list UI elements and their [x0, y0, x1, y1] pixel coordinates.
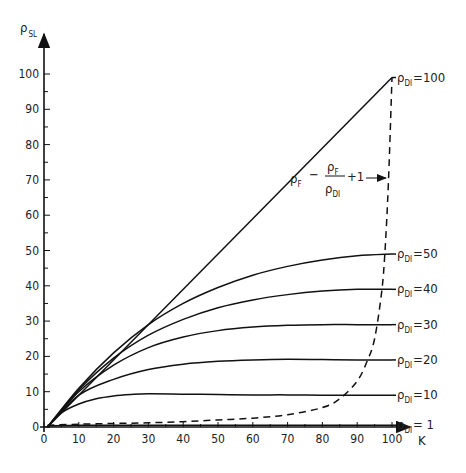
- svg-text:+1: +1: [347, 169, 364, 184]
- annotation-formula: ρF − ρF ρDI +1: [290, 159, 386, 199]
- y-tick-label: 70: [25, 173, 39, 187]
- x-tick-label: 10: [72, 432, 86, 446]
- svg-text:ρDI: ρDI: [325, 181, 340, 199]
- curve-rho-di-30: [47, 325, 392, 427]
- y-tick-label: 60: [25, 208, 39, 222]
- svg-text:ρF: ρF: [327, 159, 339, 177]
- x-tick-label: 80: [316, 432, 330, 446]
- y-tick-label: 80: [25, 138, 39, 152]
- curve-label: ρDI=40: [397, 281, 438, 299]
- y-tick-label: 30: [25, 314, 39, 328]
- curve-rho-di-40: [47, 289, 392, 427]
- curve-rho-di-50: [47, 254, 392, 427]
- curve-rho-di-100: [47, 78, 392, 427]
- x-tick-label: 100: [382, 432, 403, 446]
- y-tick-label: 20: [25, 349, 39, 363]
- curve-rho-di-10: [47, 394, 392, 427]
- curves: [47, 78, 392, 427]
- x-tick-label: 30: [142, 432, 156, 446]
- x-tick-label: 40: [176, 432, 190, 446]
- curve-rho-di-1: [47, 425, 392, 426]
- svg-text:ρF: ρF: [290, 171, 302, 189]
- y-tick-label: 100: [18, 67, 39, 81]
- curve-label: ρDI=100: [397, 70, 445, 88]
- y-tick-label: 0: [32, 420, 39, 434]
- chart-plot: 0102030405060708090100 01020304050607080…: [0, 0, 466, 473]
- curve-label: ρDI=30: [397, 317, 438, 335]
- curve-label: ρDI= 1: [397, 417, 434, 435]
- curve-labels: ρDI= 1ρDI=10ρDI=20ρDI=30ρDI=40ρDI=50ρDI=…: [392, 70, 445, 436]
- y-tick-label: 40: [25, 279, 39, 293]
- y-tick-label: 10: [25, 385, 39, 399]
- y-tick-label: 90: [25, 102, 39, 116]
- x-axis-title: K: [418, 433, 426, 448]
- curve-label: ρDI=20: [397, 352, 438, 370]
- y-tick-label: 50: [25, 244, 39, 258]
- x-tick-label: 60: [246, 432, 260, 446]
- y-ticks: 0102030405060708090100: [18, 67, 50, 434]
- x-tick-label: 20: [107, 432, 121, 446]
- svg-text:−: −: [309, 167, 319, 182]
- curve-label: ρDI=50: [397, 246, 438, 264]
- y-axis-title: ρSL: [20, 20, 37, 39]
- x-tick-label: 90: [350, 432, 364, 446]
- x-tick-label: 70: [281, 432, 295, 446]
- x-tick-label: 50: [211, 432, 225, 446]
- curve-label: ρDI=10: [397, 387, 438, 405]
- x-tick-label: 0: [41, 432, 48, 446]
